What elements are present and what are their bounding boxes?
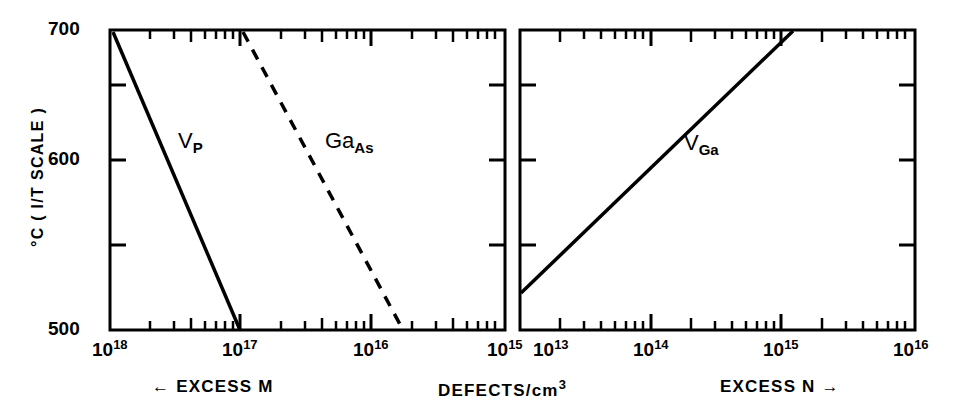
y-tick-label-500: 500 bbox=[48, 318, 80, 340]
right-axis-title: EXCESS N → bbox=[720, 377, 840, 397]
right-panel-x-ticks-bottom bbox=[560, 314, 905, 330]
x-tick-label-right-0: 1013 bbox=[533, 337, 569, 361]
right-panel-y-ticks-right bbox=[899, 85, 915, 245]
right-axis-title-text: EXCESS N bbox=[720, 377, 816, 396]
curve-label-base: V bbox=[684, 130, 699, 155]
curve-label-v-p: VP bbox=[178, 128, 203, 156]
x-tick-exponent: 13 bbox=[554, 337, 568, 352]
series-line-v-ga bbox=[521, 31, 793, 293]
x-tick-exponent: 15 bbox=[784, 337, 798, 352]
x-tick-mantissa: 10 bbox=[222, 339, 243, 360]
x-tick-label-left-0: 1018 bbox=[92, 337, 128, 361]
left-axis-title: ← EXCESS M bbox=[152, 377, 274, 397]
curve-label-subscript: Ga bbox=[699, 141, 719, 158]
x-tick-mantissa: 10 bbox=[533, 339, 554, 360]
curve-label-v-ga: VGa bbox=[684, 130, 719, 158]
right-panel-x-ticks-top bbox=[560, 30, 905, 46]
left-axis-title-text: EXCESS M bbox=[176, 377, 273, 396]
x-tick-label-left-2: 1016 bbox=[353, 337, 389, 361]
y-tick-label-700: 700 bbox=[48, 18, 80, 40]
x-tick-label-left-3: 1015 bbox=[487, 337, 523, 361]
x-tick-exponent: 15 bbox=[508, 337, 522, 352]
x-tick-mantissa: 10 bbox=[893, 339, 914, 360]
center-axis-title-text: DEFECTS/cm bbox=[438, 381, 559, 400]
x-tick-exponent: 16 bbox=[914, 337, 928, 352]
x-tick-exponent: 17 bbox=[243, 337, 257, 352]
x-tick-mantissa: 10 bbox=[763, 339, 784, 360]
left-panel-y-ticks bbox=[110, 85, 126, 245]
right-arrow-icon: → bbox=[822, 377, 840, 396]
figure-container: °C ( I/T SCALE ) bbox=[0, 0, 966, 416]
x-tick-mantissa: 10 bbox=[633, 339, 654, 360]
left-arrow-icon: ← bbox=[152, 377, 170, 396]
right-panel-frame bbox=[520, 30, 915, 330]
x-tick-label-right-2: 1015 bbox=[763, 337, 799, 361]
center-axis-title-exponent: 3 bbox=[559, 377, 567, 392]
right-panel-y-ticks bbox=[520, 85, 536, 245]
left-panel-x-ticks-top bbox=[150, 30, 495, 46]
curve-label-subscript: P bbox=[193, 139, 203, 156]
plot-canvas bbox=[0, 0, 966, 416]
x-tick-mantissa: 10 bbox=[92, 339, 113, 360]
left-panel-y-ticks-right bbox=[489, 85, 505, 245]
x-tick-label-left-1: 1017 bbox=[222, 337, 258, 361]
x-tick-exponent: 18 bbox=[113, 337, 127, 352]
x-tick-mantissa: 10 bbox=[487, 339, 508, 360]
center-axis-title: DEFECTS/cm3 bbox=[438, 377, 567, 401]
curve-label-ga-as: GaAs bbox=[325, 128, 374, 156]
x-tick-label-right-1: 1014 bbox=[633, 337, 669, 361]
series-line-ga-as bbox=[243, 32, 403, 330]
left-panel-x-ticks-bottom bbox=[150, 314, 495, 330]
curve-label-subscript: As bbox=[354, 139, 373, 156]
x-tick-label-right-3: 1016 bbox=[893, 337, 929, 361]
series-line-v-p bbox=[113, 32, 240, 330]
x-tick-exponent: 16 bbox=[374, 337, 388, 352]
curve-label-base: V bbox=[178, 128, 193, 153]
x-tick-exponent: 14 bbox=[654, 337, 668, 352]
curve-label-base: Ga bbox=[325, 128, 354, 153]
left-panel-frame bbox=[110, 30, 505, 330]
x-tick-mantissa: 10 bbox=[353, 339, 374, 360]
y-tick-label-600: 600 bbox=[48, 148, 80, 170]
